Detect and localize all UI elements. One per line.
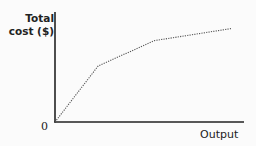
origin-label: 0	[41, 120, 48, 133]
total-cost-line	[55, 29, 232, 123]
y-axis-label: Totalcost ($)	[8, 12, 54, 38]
x-axis-label: Output	[200, 128, 238, 141]
